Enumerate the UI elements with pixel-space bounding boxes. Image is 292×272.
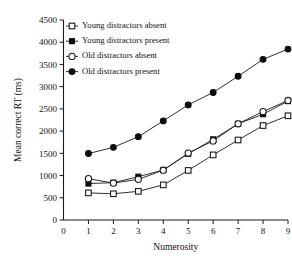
datapoint-3-3 — [160, 118, 166, 124]
datapoint-0-8 — [285, 113, 291, 119]
datapoint-3-5 — [210, 90, 216, 96]
datapoint-3-2 — [135, 134, 141, 140]
datapoint-2-3 — [160, 167, 166, 173]
legend-label-0: Young distractors absent — [82, 20, 167, 30]
datapoint-2-5 — [210, 138, 216, 144]
datapoint-0-0 — [86, 190, 92, 196]
y-tick-label-4000: 4000 — [39, 37, 58, 47]
legend-marker-2 — [69, 53, 75, 59]
x-tick-label-1: 1 — [86, 226, 91, 236]
y-tick-label-2500: 2500 — [39, 104, 58, 114]
line-chart: 0500100015002000250030003500400045000123… — [0, 0, 292, 272]
datapoint-0-3 — [160, 182, 166, 188]
legend-label-3: Old distractors present — [82, 66, 160, 76]
y-tick-label-3500: 3500 — [39, 60, 58, 70]
datapoint-2-4 — [185, 150, 191, 156]
x-tick-label-4: 4 — [161, 226, 166, 236]
datapoint-2-8 — [285, 97, 291, 103]
legend-item-3[interactable]: Old distractors present — [66, 66, 160, 76]
datapoint-2-7 — [260, 108, 266, 114]
y-tick-label-3000: 3000 — [39, 82, 58, 92]
y-tick-label-4500: 4500 — [39, 15, 58, 25]
datapoint-0-2 — [136, 189, 142, 195]
datapoint-0-1 — [111, 191, 117, 197]
legend-item-0[interactable]: Young distractors absent — [66, 20, 167, 30]
x-tick-label-9: 9 — [286, 226, 291, 236]
datapoint-2-6 — [235, 121, 241, 127]
datapoint-0-7 — [260, 123, 266, 129]
legend-label-2: Old distractors absent — [82, 50, 158, 60]
datapoint-3-0 — [86, 151, 92, 157]
datapoint-0-4 — [185, 168, 191, 174]
y-tick-label-1000: 1000 — [39, 171, 58, 181]
datapoint-2-0 — [85, 176, 91, 182]
x-tick-label-7: 7 — [236, 226, 241, 236]
datapoint-3-6 — [235, 73, 241, 79]
legend-item-2[interactable]: Old distractors absent — [66, 50, 158, 60]
datapoint-2-2 — [135, 176, 141, 182]
datapoint-3-7 — [260, 56, 266, 62]
x-axis-title: Numerosity — [153, 242, 198, 252]
legend: Young distractors absentYoung distractor… — [66, 20, 170, 76]
datapoint-3-8 — [285, 46, 291, 52]
datapoint-2-1 — [110, 180, 116, 186]
y-tick-label-500: 500 — [44, 193, 58, 203]
y-axis-title: Mean correct RT (ms) — [13, 78, 24, 162]
datapoint-0-5 — [210, 152, 216, 158]
x-tick-label-5: 5 — [186, 226, 191, 236]
legend-marker-1 — [70, 39, 75, 44]
x-tick-label-8: 8 — [261, 226, 266, 236]
y-tick-label-2000: 2000 — [39, 126, 58, 136]
x-tick-label-0: 0 — [61, 226, 66, 236]
y-tick-label-0: 0 — [53, 215, 58, 225]
legend-item-1[interactable]: Young distractors present — [66, 35, 170, 45]
figure-container: 0500100015002000250030003500400045000123… — [0, 0, 292, 272]
x-tick-label-3: 3 — [136, 226, 141, 236]
x-tick-label-6: 6 — [211, 226, 216, 236]
y-tick-label-1500: 1500 — [39, 149, 58, 159]
datapoint-3-4 — [185, 102, 191, 108]
legend-label-1: Young distractors present — [82, 35, 170, 45]
x-tick-label-2: 2 — [111, 226, 116, 236]
legend-marker-3 — [69, 69, 75, 75]
series-markers-3 — [86, 46, 291, 156]
datapoint-3-1 — [110, 144, 116, 150]
datapoint-0-6 — [235, 137, 241, 143]
legend-marker-0 — [69, 23, 75, 29]
